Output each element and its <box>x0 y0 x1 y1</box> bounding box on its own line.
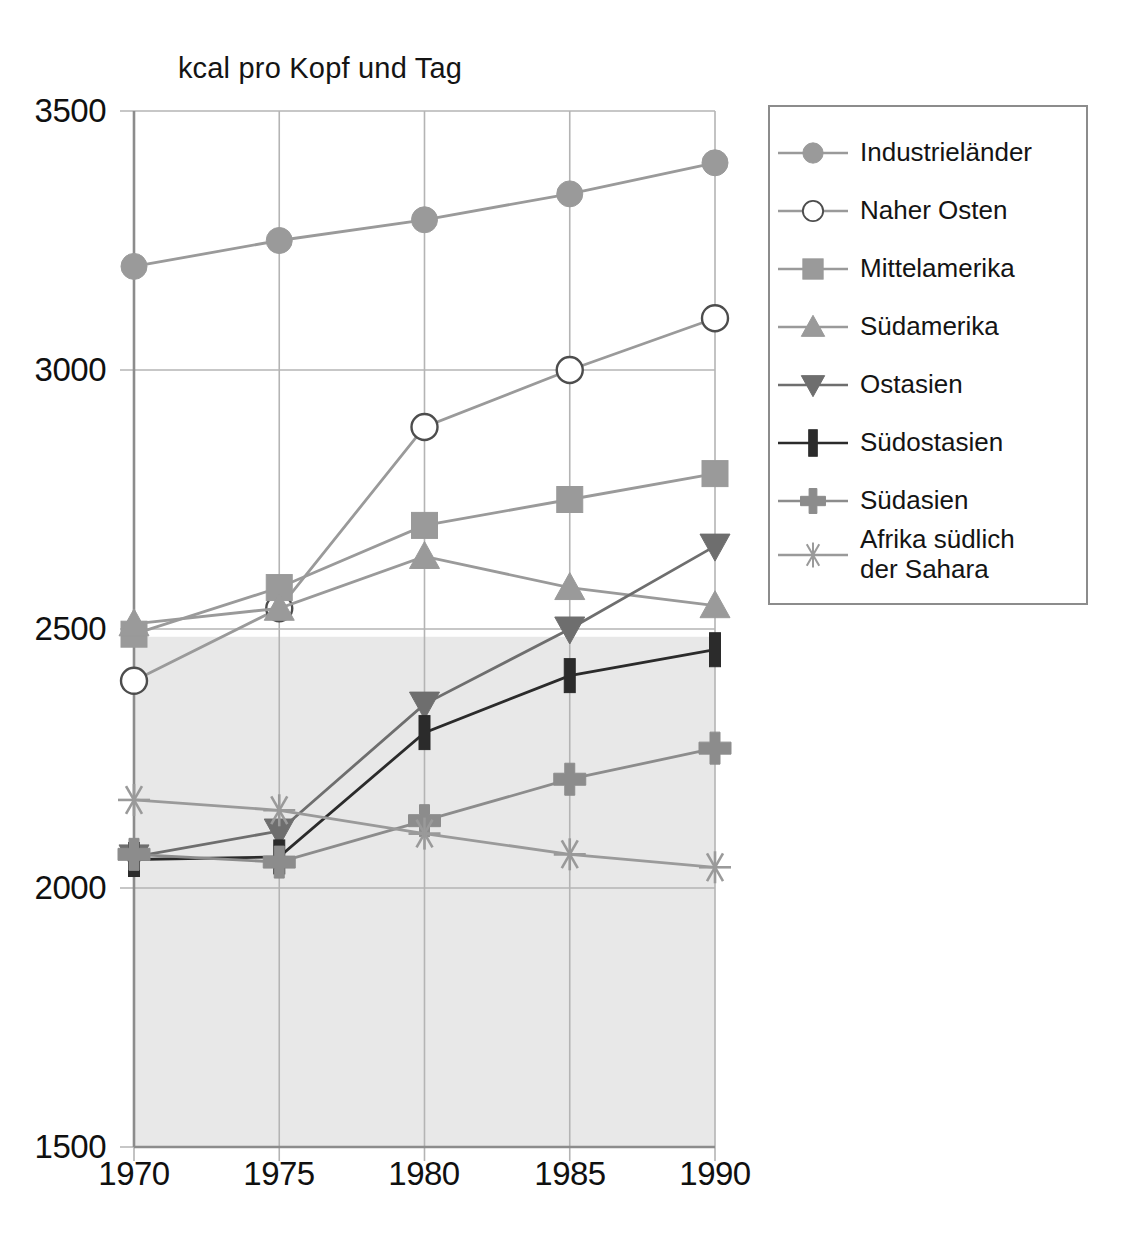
legend-label: Mittelamerika <box>856 254 1015 284</box>
legend-label: Ostasien <box>856 370 963 400</box>
marker-triangle-up <box>410 541 440 568</box>
marker-bar-vertical <box>809 430 818 457</box>
marker-square-filled <box>557 487 583 513</box>
marker-circle-filled <box>121 253 147 279</box>
marker-bar-vertical <box>564 659 575 693</box>
legend-label: Südamerika <box>856 312 999 342</box>
legend-marker-circle-filled-icon <box>770 125 856 181</box>
legend-item-industriel-nder[interactable]: Industrieländer <box>770 125 1086 181</box>
legend: IndustrieländerNaher OstenMittelamerikaS… <box>768 105 1088 605</box>
chart-root: kcal pro Kopf und Tag 3500 3000 2500 200… <box>0 0 1139 1251</box>
legend-marker-asterisk-icon <box>770 527 856 583</box>
y-tick-label: 2000 <box>0 869 106 907</box>
legend-marker-circle-open-icon <box>770 183 856 239</box>
legend-marker-bar-vertical-icon <box>770 415 856 471</box>
marker-circle-open <box>412 414 438 440</box>
marker-circle-open <box>557 357 583 383</box>
legend-item-s-dostasien[interactable]: Südostasien <box>770 415 1086 471</box>
legend-item-naher-osten[interactable]: Naher Osten <box>770 183 1086 239</box>
legend-label: Südostasien <box>856 428 1003 458</box>
marker-circle-open <box>702 305 728 331</box>
marker-square-filled <box>702 461 728 487</box>
plot-area <box>134 111 715 1147</box>
legend-label: Naher Osten <box>856 196 1007 226</box>
plot-canvas <box>134 111 715 1147</box>
legend-item-mittelamerika[interactable]: Mittelamerika <box>770 241 1086 297</box>
marker-circle-filled <box>803 143 823 163</box>
marker-asterisk <box>801 543 826 568</box>
legend-label: Südasien <box>856 486 968 516</box>
marker-square-filled <box>412 512 438 538</box>
marker-bar-vertical <box>419 716 430 750</box>
legend-item-ostasien[interactable]: Ostasien <box>770 357 1086 413</box>
y-tick-label: 3500 <box>0 92 106 130</box>
marker-plus-filled <box>801 489 826 514</box>
y-tick-label: 2500 <box>0 610 106 648</box>
marker-circle-filled <box>557 181 583 207</box>
legend-item-s-damerika[interactable]: Südamerika <box>770 299 1086 355</box>
legend-marker-square-filled-icon <box>770 241 856 297</box>
legend-marker-triangle-down-icon <box>770 357 856 413</box>
y-tick-label: 3000 <box>0 351 106 389</box>
marker-bar-vertical <box>710 633 721 667</box>
legend-marker-plus-filled-icon <box>770 473 856 529</box>
marker-circle-open <box>803 201 823 221</box>
marker-square-filled <box>803 259 823 279</box>
legend-marker-triangle-up-icon <box>770 299 856 355</box>
marker-triangle-down <box>700 534 730 561</box>
legend-item-afrika-s-dlich-der-sahara[interactable]: Afrika südlich der Sahara <box>770 527 1086 583</box>
chart-title: kcal pro Kopf und Tag <box>0 52 640 85</box>
legend-label: Afrika südlich der Sahara <box>856 525 1015 584</box>
legend-label: Industrieländer <box>856 138 1032 168</box>
marker-circle-filled <box>266 228 292 254</box>
legend-item-s-dasien[interactable]: Südasien <box>770 473 1086 529</box>
marker-circle-filled <box>702 150 728 176</box>
marker-circle-open <box>121 668 147 694</box>
marker-circle-filled <box>412 207 438 233</box>
